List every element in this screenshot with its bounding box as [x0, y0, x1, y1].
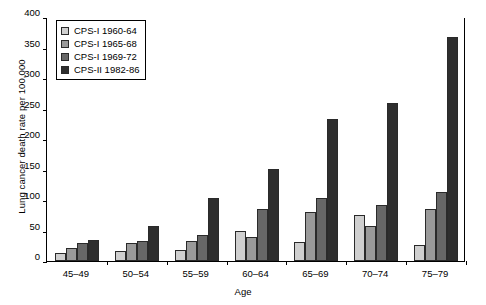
x-tick-label: 55–59: [166, 268, 226, 279]
chart-legend: CPS-I 1960-64CPS-I 1965-68CPS-I 1969-72C…: [56, 20, 146, 80]
legend-swatch-icon: [61, 27, 69, 35]
legend-swatch-icon: [61, 53, 69, 61]
legend-item[interactable]: CPS-I 1965-68: [61, 37, 139, 50]
bar[interactable]: [186, 241, 197, 261]
bar[interactable]: [137, 241, 148, 261]
legend-label: CPS-II 1982-86: [74, 64, 139, 75]
bar[interactable]: [235, 231, 246, 262]
bar[interactable]: [197, 235, 208, 261]
bar[interactable]: [436, 192, 447, 261]
bar[interactable]: [115, 251, 126, 261]
bar[interactable]: [148, 226, 159, 261]
y-tick-mark: [43, 171, 47, 172]
y-tick-mark: [43, 262, 47, 263]
bar[interactable]: [126, 243, 137, 261]
x-tick-label: 65–69: [285, 268, 345, 279]
x-tick-label: 70–74: [345, 268, 405, 279]
bar[interactable]: [268, 169, 279, 261]
bar[interactable]: [88, 240, 99, 261]
legend-label: CPS-I 1960-64: [74, 25, 137, 36]
bar[interactable]: [365, 226, 376, 261]
y-tick-mark: [43, 201, 47, 202]
legend-swatch-icon: [61, 66, 69, 74]
x-tick-label: 50–54: [106, 268, 166, 279]
legend-item[interactable]: CPS-II 1982-86: [61, 63, 139, 76]
bar[interactable]: [257, 209, 268, 261]
bar[interactable]: [175, 250, 186, 261]
y-tick-mark: [43, 110, 47, 111]
x-tick-mark: [107, 261, 108, 265]
y-tick-mark: [43, 140, 47, 141]
x-tick-mark: [286, 261, 287, 265]
y-tick-mark: [43, 49, 47, 50]
legend-label: CPS-I 1965-68: [74, 38, 137, 49]
legend-swatch-icon: [61, 40, 69, 48]
bar[interactable]: [316, 198, 327, 261]
bar[interactable]: [387, 103, 398, 261]
x-tick-label: 45–49: [46, 268, 106, 279]
bar[interactable]: [354, 215, 365, 261]
bar[interactable]: [77, 243, 88, 261]
bar[interactable]: [55, 253, 66, 261]
bar[interactable]: [414, 245, 425, 261]
x-tick-mark: [466, 261, 467, 265]
y-tick-mark: [43, 232, 47, 233]
bar-group: [354, 18, 398, 261]
bar[interactable]: [66, 248, 77, 261]
x-axis-title: Age: [0, 286, 486, 297]
x-tick-mark: [167, 261, 168, 265]
legend-label: CPS-I 1969-72: [74, 51, 137, 62]
legend-item[interactable]: CPS-I 1969-72: [61, 50, 139, 63]
chart-figure: Lung cancer death rate per 100,000 05010…: [0, 0, 486, 305]
x-tick-mark: [346, 261, 347, 265]
bar[interactable]: [246, 237, 257, 261]
bar-group: [235, 18, 279, 261]
bar[interactable]: [376, 205, 387, 261]
bar-group: [294, 18, 338, 261]
x-tick-mark: [406, 261, 407, 265]
bar[interactable]: [327, 119, 338, 261]
x-tick-label: 75–79: [405, 268, 465, 279]
x-tick-mark: [227, 261, 228, 265]
bar-group: [414, 18, 458, 261]
y-tick-mark: [43, 79, 47, 80]
y-tick-mark: [43, 18, 47, 19]
bar[interactable]: [208, 198, 219, 261]
bar[interactable]: [305, 212, 316, 261]
bar-group: [175, 18, 219, 261]
bar[interactable]: [294, 242, 305, 261]
legend-item[interactable]: CPS-I 1960-64: [61, 24, 139, 37]
x-tick-label: 60–64: [226, 268, 286, 279]
bar[interactable]: [425, 209, 436, 261]
bar[interactable]: [447, 37, 458, 261]
